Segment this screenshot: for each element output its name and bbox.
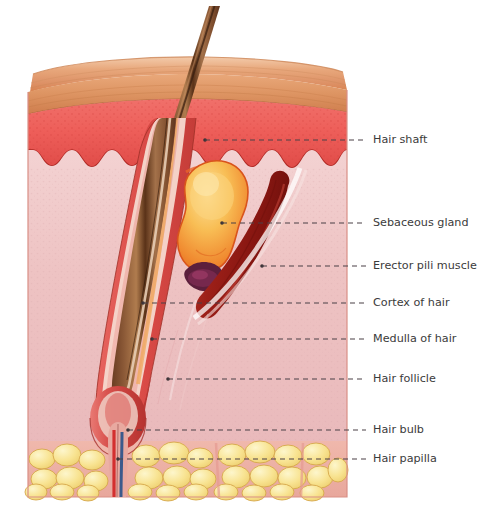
label-sebaceous-gland: Sebaceous gland <box>373 216 469 229</box>
label-medulla-of-hair: Medulla of hair <box>373 332 457 345</box>
label-hair-follicle: Hair follicle <box>373 372 436 385</box>
label-hair-bulb: Hair bulb <box>373 423 424 436</box>
label-cortex-of-hair: Cortex of hair <box>373 296 450 309</box>
subcutaneous-layer <box>25 441 348 501</box>
hair-follicle-diagram: Hair shaft Sebaceous gland Erector pili … <box>0 0 495 529</box>
anatomy-illustration: Hair shaft Sebaceous gland Erector pili … <box>0 0 495 529</box>
papilla-vein <box>121 432 122 497</box>
label-erector-pili-muscle: Erector pili muscle <box>373 259 477 272</box>
label-hair-shaft: Hair shaft <box>373 133 428 146</box>
label-hair-papilla: Hair papilla <box>373 452 437 465</box>
